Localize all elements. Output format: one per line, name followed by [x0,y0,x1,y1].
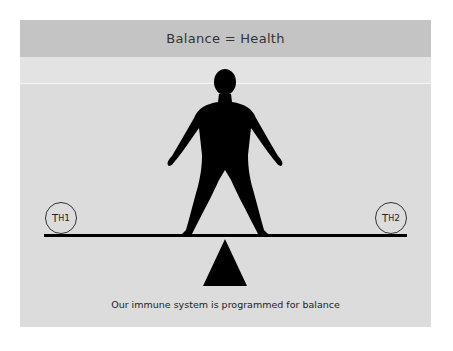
th1-label: TH1 [45,202,77,234]
th2-sup: 2 [394,213,400,223]
balance-diagram [20,20,431,327]
fulcrum-triangle-icon [203,239,247,286]
th1-sup: 1 [64,213,70,223]
th2-label: TH2 [375,202,407,234]
caption: Our immune system is programmed for bala… [20,299,431,310]
balance-beam [44,234,407,237]
slide-panel: Balance = Health TH1 TH2 Our immune syst… [20,20,431,327]
human-silhouette-icon [168,69,283,234]
